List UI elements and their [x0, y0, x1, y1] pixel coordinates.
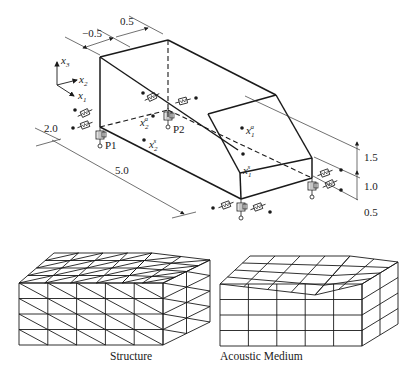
point-label-x1a: x1a	[246, 124, 254, 139]
point-label-x2a: x2a	[140, 116, 148, 131]
dim-height-lower: 0.5	[364, 207, 378, 218]
structure-mesh	[19, 253, 210, 345]
axis-x1-label: x1	[78, 90, 86, 104]
mount-front-right	[211, 199, 272, 220]
isometric-model	[35, 16, 360, 220]
dim-neg-offset: −0.5	[82, 28, 102, 39]
point-label-p2: P2	[173, 124, 185, 135]
axis-x2-label: x2	[79, 74, 87, 88]
dim-height-middle: 1.0	[364, 181, 378, 192]
dim-width: 2.0	[44, 123, 58, 134]
acoustic-mesh	[220, 256, 398, 346]
caption-structure: Structure	[110, 351, 152, 363]
point-label-x2s: x2s	[149, 138, 156, 153]
caption-acoustic-medium: Acoustic Medium	[220, 351, 303, 363]
dim-pos-offset: 0.5	[120, 16, 134, 27]
dim-height-upper: 1.5	[364, 152, 378, 163]
axis-x3-label: x3	[61, 55, 69, 69]
hidden-edges	[100, 40, 312, 178]
point-label-p1: P1	[105, 140, 117, 151]
dim-length: 5.0	[115, 165, 129, 176]
mount-rear-right	[308, 167, 343, 199]
mount-rear-left	[141, 91, 198, 129]
dimension-top	[65, 16, 163, 55]
point-label-x1s: x1s	[243, 164, 250, 179]
